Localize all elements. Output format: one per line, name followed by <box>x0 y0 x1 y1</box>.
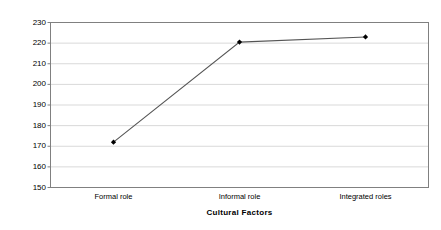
x-axis-title: Cultural Factors <box>50 208 429 217</box>
data-markers <box>111 34 368 144</box>
x-tick-label: Integrated roles <box>339 192 391 201</box>
data-point-marker <box>363 34 368 39</box>
gridlines <box>48 23 429 188</box>
x-tick-label: Informal role <box>219 192 261 201</box>
line-chart: Percent change 1501601701801902002102202… <box>0 0 441 230</box>
data-line <box>114 37 366 142</box>
x-tick-label: Formal role <box>95 192 133 201</box>
